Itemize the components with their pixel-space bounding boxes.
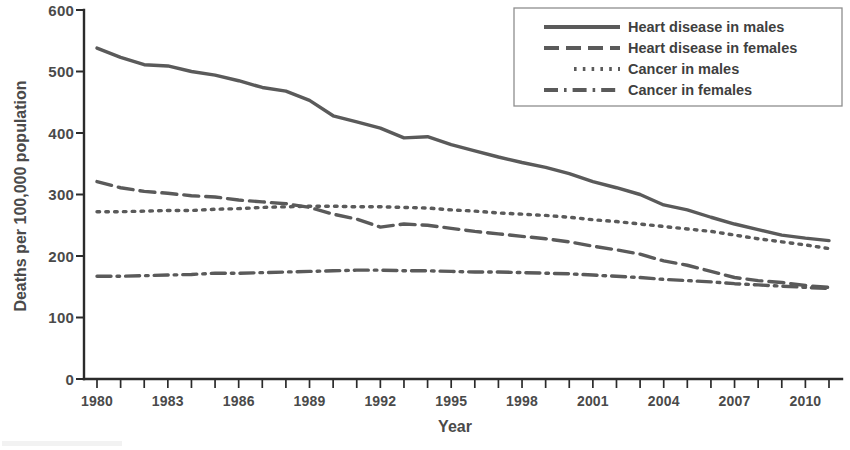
y-tick-label: 0 (65, 371, 74, 388)
legend-label-0: Heart disease in males (628, 19, 784, 35)
figure-container: 0100200300400500600 19801983198619891992… (0, 0, 850, 450)
legend-label-3: Cancer in females (628, 82, 752, 98)
x-tick-label: 1983 (152, 393, 184, 409)
y-tick-label: 200 (48, 248, 74, 265)
x-axis-tick-labels: 1980198319861989199219951998200120042007… (81, 393, 821, 409)
chart-legend: Heart disease in malesHeart disease in f… (514, 8, 842, 106)
line-chart: 0100200300400500600 19801983198619891992… (0, 0, 850, 450)
x-tick-label: 2001 (577, 393, 609, 409)
y-tick-label: 600 (48, 2, 74, 19)
x-tick-label: 2007 (719, 393, 751, 409)
y-tick-label: 300 (48, 186, 74, 203)
y-tick-label: 100 (48, 309, 74, 326)
x-axis-title: Year (438, 418, 472, 435)
y-axis-tick-labels: 0100200300400500600 (48, 2, 74, 388)
legend-label-1: Heart disease in females (628, 40, 797, 56)
y-tick-label: 400 (48, 125, 74, 142)
x-tick-label: 1995 (435, 393, 467, 409)
x-tick-label: 1998 (506, 393, 538, 409)
x-tick-label: 2004 (648, 393, 680, 409)
x-tick-label: 1989 (294, 393, 326, 409)
y-axis-title: Deaths per 100,000 population (12, 80, 29, 311)
x-tick-label: 1992 (364, 393, 396, 409)
page-artifact (2, 441, 122, 446)
x-tick-label: 1980 (81, 393, 113, 409)
legend-label-2: Cancer in males (628, 61, 739, 77)
x-tick-label: 1986 (223, 393, 255, 409)
x-tick-label: 2010 (789, 393, 821, 409)
y-tick-label: 500 (48, 63, 74, 80)
series-line-2 (97, 206, 829, 248)
